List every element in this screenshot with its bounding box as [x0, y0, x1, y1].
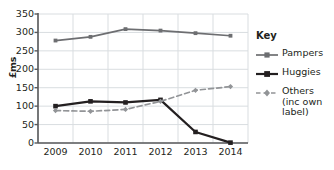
legend-label-others-line1: Others — [282, 86, 322, 97]
legend-label-others-line3: label) — [282, 107, 322, 118]
legend-item-huggies[interactable]: Huggies — [256, 67, 334, 80]
legend-item-others[interactable]: Others (inc own label) — [256, 86, 334, 118]
line-chart: £ms 050100150200250300350 20092010201120… — [0, 0, 334, 170]
data-point-marker — [228, 140, 233, 145]
data-point-marker — [88, 109, 93, 114]
data-point-marker — [229, 34, 233, 38]
data-point-marker — [53, 108, 58, 113]
data-point-marker — [88, 99, 93, 104]
data-point-marker — [123, 107, 128, 112]
legend-item-pampers[interactable]: Pampers — [256, 48, 334, 61]
legend-title: Key — [256, 30, 334, 41]
data-point-marker — [123, 100, 128, 105]
legend-swatch-pampers — [256, 49, 278, 61]
data-point-marker — [89, 35, 93, 39]
legend-swatch-others — [256, 87, 278, 99]
gridlines — [38, 14, 248, 143]
data-point-marker — [54, 39, 58, 43]
data-point-marker — [53, 104, 58, 109]
legend-label-others: Others (inc own label) — [282, 86, 322, 118]
data-point-marker — [193, 88, 198, 93]
data-point-marker — [124, 27, 128, 31]
legend-label-pampers: Pampers — [282, 48, 323, 59]
data-point-marker — [194, 31, 198, 35]
legend-swatch-huggies — [256, 68, 278, 80]
legend: Key Pampers Huggies Others (inc own — [256, 30, 334, 124]
legend-label-huggies: Huggies — [282, 67, 321, 78]
data-point-marker — [159, 29, 163, 33]
data-point-marker — [228, 84, 233, 89]
data-point-marker — [193, 130, 198, 135]
